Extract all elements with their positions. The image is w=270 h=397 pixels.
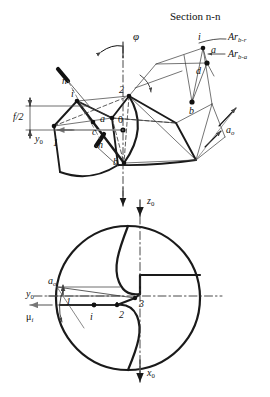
label-angle-mu-i: μi: [26, 312, 33, 324]
label-a0-endview: ao: [48, 276, 56, 288]
angle-phi-arc: [101, 42, 123, 58]
label-point-d: d: [196, 66, 201, 76]
section-point-open: [122, 129, 124, 131]
label-point-3-endview: 3: [139, 299, 144, 309]
label-point-0: 0: [118, 115, 123, 125]
end-view-outer-circle: [56, 226, 200, 370]
section-title: Section n-n: [170, 11, 220, 22]
label-ar-b-r: Arb-r: [228, 32, 246, 44]
label-y0-endview: y0: [26, 289, 34, 301]
angle-phi-label: φ: [133, 31, 139, 42]
label-cut-n-lower: n: [98, 140, 103, 150]
label-dim-f-half: f/2: [13, 112, 24, 122]
label-ar-b-a: Arb-a: [228, 49, 247, 61]
chisel-edge-curve: [124, 96, 138, 163]
label-point-b-band: b: [189, 106, 194, 116]
label-axis-z0: z0: [147, 196, 154, 208]
label-point-a-section: a: [100, 114, 105, 124]
leader-ar-br: [199, 39, 226, 43]
label-point-b-section: b: [113, 157, 118, 167]
label-point-i-endview: i: [90, 312, 93, 322]
label-point-i-band: i: [198, 32, 201, 42]
flute-profile-upper: [116, 226, 200, 294]
label-point-2-endview: 2: [119, 310, 124, 320]
label-axis-x0: x0: [147, 368, 155, 380]
label-point-a-band: a: [211, 45, 216, 55]
label-point-1-section: 1: [53, 138, 58, 148]
label-point-i-section: i: [71, 89, 74, 99]
label-cut-n-upper: n: [62, 76, 67, 86]
label-point-2-section: 2: [119, 85, 124, 95]
label-a0-section: ao: [226, 125, 234, 137]
label-point-c: c: [92, 127, 96, 137]
label-y0-section: y0: [35, 134, 43, 146]
angle-phi-inner-arc: [140, 75, 151, 92]
label-point-1-endview: 1: [66, 297, 71, 307]
drill-point-geometry-figure: Section n-n φ Arb-r Arb-a i a d b ao 2 n…: [0, 0, 270, 397]
